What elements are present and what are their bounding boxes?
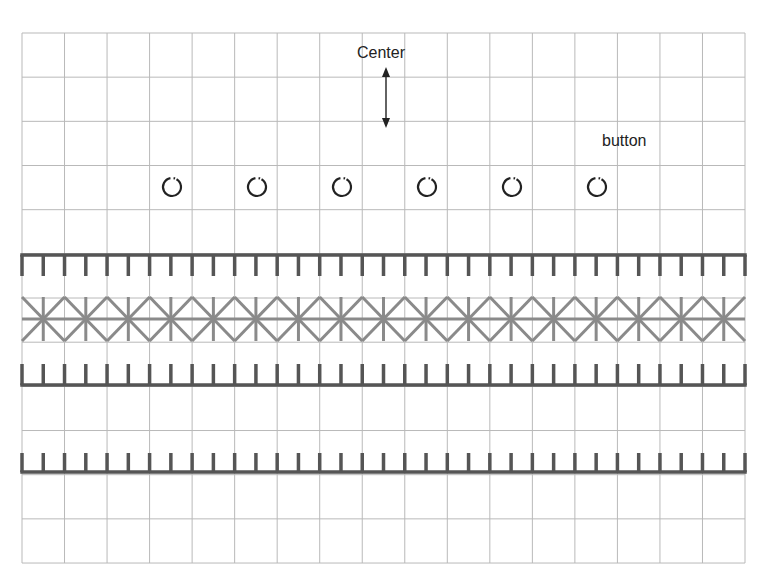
comb-band-bottom [22,453,745,472]
stitch-bands [22,255,745,472]
button-ring-icon [163,178,181,196]
comb-band-top [22,255,745,276]
buttons-row [163,178,606,196]
comb-band-bottom [22,364,745,385]
button-ring-icon [248,178,266,196]
button-ring-icon [588,178,606,196]
arrow-head-up-icon [382,67,390,77]
cross-stitch-band [22,297,745,341]
stitch-pattern-diagram [0,0,764,579]
button-ring-icon [418,178,436,196]
button-ring-icon [503,178,521,196]
button-ring-icon [333,178,351,196]
button-label: button [602,133,646,149]
center-arrow-icon [382,67,390,128]
arrow-head-down-icon [382,118,390,128]
center-label: Center [357,45,405,61]
